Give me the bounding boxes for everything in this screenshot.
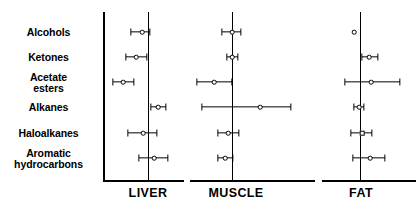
x-axis-segment-muscle (190, 180, 315, 182)
ci-cap-high-muscle-ketones (237, 54, 238, 61)
reference-line-fat (360, 12, 361, 180)
row-label-ketones: Ketones (0, 52, 97, 63)
ci-cap-low-liver-alcohols (130, 29, 131, 36)
ci-cap-high-fat-ketones (377, 54, 378, 61)
estimate-marker-liver-ketones (134, 55, 139, 60)
ci-cap-high-muscle-acetate-esters (231, 79, 232, 86)
ci-cap-low-liver-alkanes (150, 104, 151, 111)
ci-cap-high-muscle-alcohols (240, 29, 241, 36)
estimate-marker-muscle-aromatic-hydrocarbons (223, 156, 228, 161)
x-axis-segment-liver (103, 180, 184, 182)
ci-cap-low-liver-haloalkanes (127, 130, 128, 137)
ci-cap-high-liver-acetate-esters (133, 79, 134, 86)
ci-cap-low-muscle-ketones (226, 54, 227, 61)
ci-cap-high-fat-haloalkanes (371, 130, 372, 137)
ci-cap-high-liver-alkanes (165, 104, 166, 111)
ci-cap-high-liver-haloalkanes (156, 130, 157, 137)
estimate-marker-fat-alcohols (352, 30, 357, 35)
estimate-marker-fat-alkanes (357, 105, 362, 110)
row-label-haloalkanes: Haloalkanes (0, 128, 97, 139)
estimate-marker-muscle-acetate-esters (212, 80, 217, 85)
reference-line-liver (148, 12, 149, 180)
estimate-marker-liver-acetate-esters (121, 80, 126, 85)
estimate-marker-muscle-alcohols (230, 30, 235, 35)
ci-cap-low-muscle-alcohols (221, 29, 222, 36)
estimate-marker-fat-acetate-esters (369, 80, 374, 85)
ci-cap-low-liver-ketones (125, 54, 126, 61)
estimate-marker-fat-ketones (367, 55, 372, 60)
ci-cap-low-muscle-haloalkanes (217, 130, 218, 137)
ci-cap-low-muscle-aromatic-hydrocarbons (217, 155, 218, 162)
row-label-acetate-esters: Acetate esters (0, 72, 97, 93)
ci-cap-high-fat-acetate-esters (399, 79, 400, 86)
ci-cap-low-muscle-acetate-esters (196, 79, 197, 86)
panel-title-fat: FAT (349, 186, 373, 200)
ci-cap-high-fat-alkanes (363, 104, 364, 111)
estimate-marker-liver-haloalkanes (141, 131, 146, 136)
y-axis-spine (103, 12, 105, 180)
ci-cap-high-liver-aromatic-hydrocarbons (167, 155, 168, 162)
ci-cap-high-muscle-haloalkanes (238, 130, 239, 137)
ci-cap-low-liver-acetate-esters (112, 79, 113, 86)
estimate-marker-muscle-ketones (230, 55, 235, 60)
ci-cap-high-liver-ketones (146, 54, 147, 61)
estimate-marker-liver-alkanes (156, 105, 161, 110)
panel-title-muscle: MUSCLE (208, 186, 263, 200)
ci-cap-high-muscle-alkanes (290, 104, 291, 111)
panel-title-liver: LIVER (129, 186, 168, 200)
forest-plot-figure: LIVERMUSCLEFATAlcoholsKetonesAcetate est… (0, 0, 419, 216)
ci-cap-low-muscle-alkanes (201, 104, 202, 111)
ci-cap-high-fat-aromatic-hydrocarbons (384, 155, 385, 162)
ci-cap-low-fat-ketones (361, 54, 362, 61)
ci-line-muscle-alkanes (202, 106, 291, 107)
ci-cap-low-fat-aromatic-hydrocarbons (352, 155, 353, 162)
estimate-marker-liver-alcohols (140, 30, 145, 35)
estimate-marker-fat-haloalkanes (360, 131, 365, 136)
ci-cap-low-liver-aromatic-hydrocarbons (138, 155, 139, 162)
row-label-alkanes: Alkanes (0, 102, 97, 113)
ci-cap-high-muscle-aromatic-hydrocarbons (232, 155, 233, 162)
x-axis-segment-fat (322, 180, 416, 182)
row-label-alcohols: Alcohols (0, 27, 97, 38)
ci-cap-low-fat-acetate-esters (344, 79, 345, 86)
estimate-marker-muscle-alkanes (258, 105, 263, 110)
ci-cap-low-fat-haloalkanes (350, 130, 351, 137)
estimate-marker-liver-aromatic-hydrocarbons (152, 156, 157, 161)
row-label-aromatic-hydrocarbons: Aromatic hydrocarbons (0, 148, 97, 169)
estimate-marker-fat-aromatic-hydrocarbons (368, 156, 373, 161)
ci-cap-high-liver-alcohols (149, 29, 150, 36)
estimate-marker-muscle-haloalkanes (226, 131, 231, 136)
ci-cap-low-fat-alkanes (353, 104, 354, 111)
